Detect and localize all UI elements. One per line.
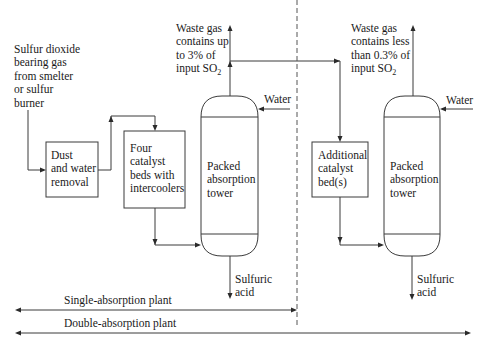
feed-line — [28, 110, 44, 170]
additional-catalyst-label: Additional catalyst bed(s) — [318, 149, 367, 189]
unit-line: intercoolers — [130, 182, 184, 195]
unit-line: Four — [130, 142, 184, 155]
double-absorption-label: Double-absorption plant — [64, 317, 176, 330]
unit-line: removal — [51, 176, 96, 189]
unit-line: Additional — [318, 149, 367, 162]
water-1-label: Water — [264, 93, 291, 106]
unit-line: tower — [390, 187, 439, 200]
unit-line: catalyst — [318, 162, 367, 175]
so2-text: input SO — [351, 62, 392, 74]
arrow-head — [410, 294, 415, 300]
waste-line: input SO2 — [351, 62, 410, 80]
waste-line: contains less — [351, 35, 410, 48]
arrow-head — [334, 59, 340, 64]
tower2-label: Packed absorption tower — [390, 160, 439, 200]
additional-to-tower2-line — [340, 197, 382, 245]
source-label: Sulfur dioxide bearing gas from smelter … — [14, 43, 80, 110]
arrow-head — [15, 308, 21, 313]
subscript: 2 — [392, 69, 396, 78]
waste-line: contains up — [176, 35, 229, 48]
arrow-head — [291, 308, 297, 313]
arrow-head — [40, 168, 46, 173]
arrow-head — [378, 243, 384, 248]
acid-line: acid — [235, 286, 272, 299]
tower1-label: Packed absorption tower — [207, 160, 256, 200]
source-line: bearing gas — [14, 56, 80, 69]
waste-line: to 3% of — [176, 49, 229, 62]
unit-line: Packed — [390, 160, 439, 173]
acid-line: Sulfuric — [235, 273, 272, 286]
waste-line: Waste gas — [176, 22, 229, 35]
waste-gas-2-label: Waste gas contains less than 0.3% of inp… — [351, 22, 410, 80]
arrow-head — [153, 239, 158, 245]
unit-line: beds with — [130, 169, 184, 182]
source-line: or sulfur — [14, 83, 80, 96]
dust-removal-label: Dust and water removal — [51, 149, 96, 189]
arrow-head — [338, 136, 343, 142]
source-line: from smelter — [14, 70, 80, 83]
unit-line: absorption — [207, 173, 256, 186]
arrow-head — [465, 331, 471, 336]
subscript: 2 — [217, 69, 221, 78]
unit-line: tower — [207, 187, 256, 200]
waste-line: input SO2 — [176, 62, 229, 80]
unit-line: and water — [51, 162, 96, 175]
acid-2-label: Sulfuric acid — [417, 273, 454, 300]
unit-line: Packed — [207, 160, 256, 173]
arrow-head — [258, 107, 264, 112]
arrow-head — [153, 125, 158, 131]
acid-1-label: Sulfuric acid — [235, 273, 272, 300]
arrow-head — [338, 237, 343, 243]
catalyst-to-tower1-line — [155, 208, 199, 245]
arrow-head — [195, 243, 201, 248]
acid-line: Sulfuric — [417, 273, 454, 286]
source-line: Sulfur dioxide — [14, 43, 80, 56]
waste-gas-1-label: Waste gas contains up to 3% of input SO2 — [176, 22, 229, 80]
arrow-head — [15, 331, 21, 336]
arrow-head — [228, 293, 233, 299]
acid-line: acid — [417, 286, 454, 299]
arrow-head — [411, 25, 416, 31]
waste-line: than 0.3% of — [351, 49, 410, 62]
unit-line: absorption — [390, 173, 439, 186]
source-line: burner — [14, 97, 80, 110]
so2-text: input SO — [176, 62, 217, 74]
unit-line: catalyst — [130, 155, 184, 168]
unit-line: bed(s) — [318, 176, 367, 189]
single-absorption-label: Single-absorption plant — [64, 294, 172, 307]
unit-line: Dust — [51, 149, 96, 162]
water-2-label: Water — [446, 94, 473, 107]
catalyst-beds-label: Four catalyst beds with intercoolers — [130, 142, 184, 196]
arrow-head — [109, 116, 114, 122]
waste-line: Waste gas — [351, 22, 410, 35]
